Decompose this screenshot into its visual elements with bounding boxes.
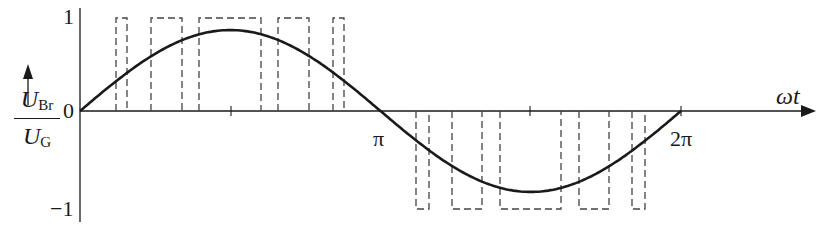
positive-pulse-5 (333, 18, 344, 111)
y-tick-label-0: 0 (63, 100, 74, 122)
denominator-main: U (23, 123, 40, 149)
y-label-denominator: UG (12, 124, 62, 150)
negative-pulse-1 (416, 111, 429, 209)
y-tick-label-minus-1: −1 (50, 198, 73, 220)
ylabel-arrowhead (23, 64, 33, 79)
chart-plot (0, 0, 827, 232)
positive-pulse-1 (116, 18, 127, 111)
numerator-sub: Br (38, 97, 53, 113)
y-tick-label-1: 1 (63, 6, 74, 28)
numerator-main: U (21, 86, 38, 112)
denominator-sub: G (40, 134, 51, 150)
pwm-pulses (116, 18, 645, 209)
x-tick-label-pi: π (373, 128, 384, 150)
y-label-numerator: UBr (12, 87, 62, 113)
positive-pulse-4 (278, 18, 309, 111)
x-axis-arrowhead (801, 105, 816, 117)
positive-pulse-2 (151, 18, 182, 111)
negative-pulse-2 (452, 111, 482, 209)
x-tick-label-two-pi: 2π (670, 128, 692, 150)
x-axis-label: ωt (776, 84, 800, 108)
negative-pulse-4 (579, 111, 609, 209)
fraction-bar (14, 118, 60, 119)
y-axis-label: UBr UG (12, 87, 62, 150)
negative-pulse-3 (500, 111, 561, 209)
negative-pulse-5 (632, 111, 645, 209)
